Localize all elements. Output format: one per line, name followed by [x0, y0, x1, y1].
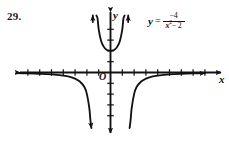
equation-variable: y	[148, 16, 153, 27]
equation-label: y = −4 x2− 2	[148, 12, 185, 30]
fraction-denominator: x2− 2	[164, 22, 182, 30]
denominator-rest: − 2	[172, 21, 182, 30]
equation-fraction: −4 x2− 2	[163, 12, 185, 30]
curve-left-branch	[16, 73, 91, 128]
origin-label: O	[99, 72, 106, 82]
equation-equals-sign: =	[155, 16, 161, 26]
graph-figure: 29. y = −4 x2− 2 y x O	[0, 0, 229, 142]
coordinate-plot	[0, 0, 229, 142]
x-axis-label: x	[219, 74, 225, 85]
problem-number: 29.	[7, 11, 21, 22]
curve-right-branch	[130, 73, 205, 128]
axes-group	[20, 12, 221, 133]
y-axis-label: y	[113, 10, 118, 21]
